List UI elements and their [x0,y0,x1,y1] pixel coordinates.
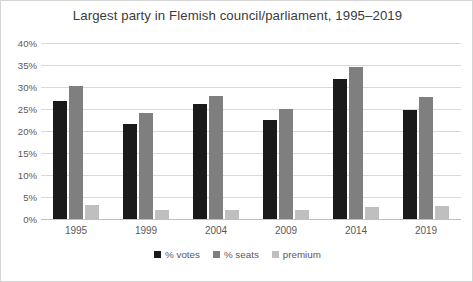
y-axis: 40%35%30%25%20%15%10%5%0% [1,43,37,219]
bar [69,86,83,219]
legend-label: premium [283,249,321,260]
x-axis-tick-label: 1999 [111,225,181,236]
legend-label: % votes [165,249,200,260]
legend-swatch-icon [272,251,279,258]
chart-container: Largest party in Flemish council/parliam… [0,0,473,282]
y-axis-tick-label: 0% [3,214,37,225]
y-axis-tick-label: 5% [3,192,37,203]
bar-group [41,43,111,219]
x-axis-line [41,219,461,220]
bar [279,109,293,219]
legend-item[interactable]: % votes [154,249,200,260]
bar [139,113,153,219]
x-axis-tick-label: 1995 [41,225,111,236]
bar [403,110,417,219]
legend-item[interactable]: premium [272,249,321,260]
legend-label: % seats [224,249,259,260]
x-axis-tick-label: 2009 [251,225,321,236]
legend-swatch-icon [213,251,220,258]
bar [225,210,239,219]
bar-group [111,43,181,219]
chart-legend: % votes% seatspremium [1,249,473,260]
y-axis-tick-label: 25% [3,104,37,115]
bar-group [181,43,251,219]
y-axis-tick-label: 10% [3,170,37,181]
bar [53,101,67,219]
bar [193,104,207,219]
bar [209,96,223,219]
x-axis-tick-label: 2014 [321,225,391,236]
y-axis-tick-label: 30% [3,82,37,93]
chart-title: Largest party in Flemish council/parliam… [1,8,473,23]
bar-group [391,43,461,219]
bar [349,67,363,219]
bar [123,124,137,219]
legend-swatch-icon [154,251,161,258]
bar [419,97,433,219]
bar [263,120,277,219]
bar [365,207,379,219]
plot-area [41,43,461,219]
x-axis-tick-label: 2004 [181,225,251,236]
bar [295,210,309,219]
bar [85,205,99,219]
bar-group [251,43,321,219]
legend-item[interactable]: % seats [213,249,259,260]
bar [155,210,169,219]
x-axis-tick-label: 2019 [391,225,461,236]
y-axis-tick-label: 20% [3,126,37,137]
bar-group [321,43,391,219]
bar [435,206,449,219]
bar [333,79,347,219]
y-axis-tick-label: 40% [3,38,37,49]
y-axis-tick-label: 15% [3,148,37,159]
y-axis-tick-label: 35% [3,60,37,71]
